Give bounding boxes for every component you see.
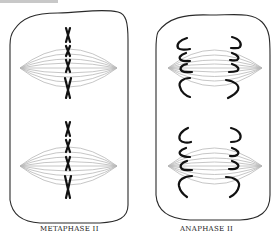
meiosis-ii-figure: METAPHASE II ANAPHASE II (0, 0, 275, 239)
anaphase-ii-cell (156, 15, 270, 220)
anaphase-cell-membrane (156, 15, 270, 220)
anaphase-ii-caption: ANAPHASE II (180, 225, 233, 233)
metaphase-ii-caption: METAPHASE II (40, 225, 99, 233)
metaphase-upper-chromosomes (65, 28, 71, 98)
metaphase-ii-cell (10, 10, 128, 223)
metaphase-lower-chromosomes (65, 122, 71, 198)
anaphase-upper-chromatids (177, 37, 240, 98)
meiosis-diagram (0, 0, 275, 239)
